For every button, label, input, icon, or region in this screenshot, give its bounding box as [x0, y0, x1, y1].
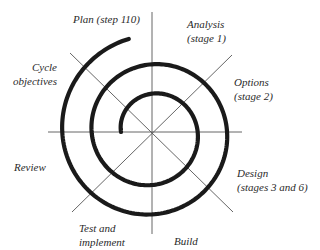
label-review: Review [14, 160, 46, 174]
label-design-line2: (stages 3 and 6) [237, 180, 308, 194]
label-cycle-line2: objectives [10, 74, 57, 88]
label-options-line2: (stage 2) [234, 89, 273, 103]
label-options-line1: Options [234, 75, 273, 89]
label-cycle-line1: Cycle [10, 60, 57, 74]
sector-axes [48, 12, 242, 234]
label-options: Options (stage 2) [234, 75, 273, 103]
label-test-line2: implement [79, 235, 125, 249]
label-analysis-line1: Analysis [187, 17, 226, 31]
label-build-line1: Build [174, 234, 198, 248]
label-cycle-objectives: Cycle objectives [10, 60, 57, 88]
label-test-implement: Test and implement [79, 221, 125, 249]
label-build: Build [174, 234, 198, 248]
label-analysis: Analysis (stage 1) [187, 17, 226, 45]
label-design: Design (stages 3 and 6) [237, 166, 308, 194]
spiral-diagram [0, 0, 320, 250]
label-plan-line1: Plan (step 110) [73, 12, 140, 26]
label-analysis-line2: (stage 1) [187, 31, 226, 45]
label-review-line1: Review [14, 160, 46, 174]
label-test-line1: Test and [79, 221, 125, 235]
label-plan: Plan (step 110) [73, 12, 140, 26]
label-design-line1: Design [237, 166, 308, 180]
spiral-path [62, 39, 227, 215]
